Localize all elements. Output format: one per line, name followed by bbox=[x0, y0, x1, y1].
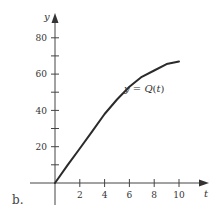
fn-eq: = bbox=[130, 83, 145, 94]
y-tick-label-60: 60 bbox=[36, 69, 48, 79]
x-tick-label-8: 8 bbox=[151, 190, 157, 200]
fn-name: Q bbox=[144, 83, 152, 94]
function-label: y = Q(t) bbox=[123, 83, 165, 94]
y-tick-label-20: 20 bbox=[36, 142, 48, 152]
x-tick-label-4: 4 bbox=[102, 190, 108, 200]
y-tick-label-80: 80 bbox=[36, 33, 48, 43]
y-axis-label: y bbox=[43, 11, 50, 22]
panel-label: b. bbox=[12, 193, 24, 207]
curve-q-of-t bbox=[55, 61, 179, 183]
x-tick-label-6: 6 bbox=[127, 190, 133, 200]
y-axis-arrow-icon bbox=[52, 13, 59, 23]
x-axis-arrow-icon bbox=[199, 180, 209, 187]
x-tick-label-2: 2 bbox=[77, 190, 83, 200]
chart: 20 40 60 80 2 4 6 8 10 y t y = Q(t) b. bbox=[0, 0, 222, 214]
fn-close: ) bbox=[161, 83, 165, 94]
t-axis-label: t bbox=[204, 188, 209, 199]
y-tick-label-40: 40 bbox=[36, 106, 48, 116]
x-tick-label-10: 10 bbox=[173, 190, 185, 200]
